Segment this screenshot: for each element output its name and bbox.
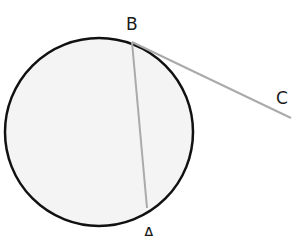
circle (5, 38, 193, 226)
point-label-a: A (143, 224, 155, 236)
geometry-diagram: B A C (0, 0, 292, 236)
point-label-c: C (276, 88, 288, 108)
point-label-b: B (126, 14, 138, 34)
